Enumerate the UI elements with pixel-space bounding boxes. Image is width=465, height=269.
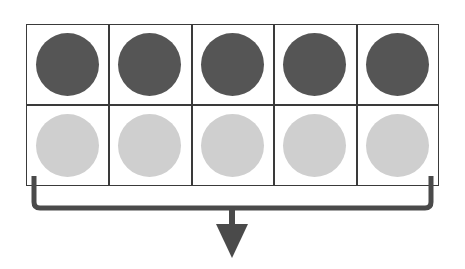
bracket-arrow-icon (0, 0, 465, 269)
